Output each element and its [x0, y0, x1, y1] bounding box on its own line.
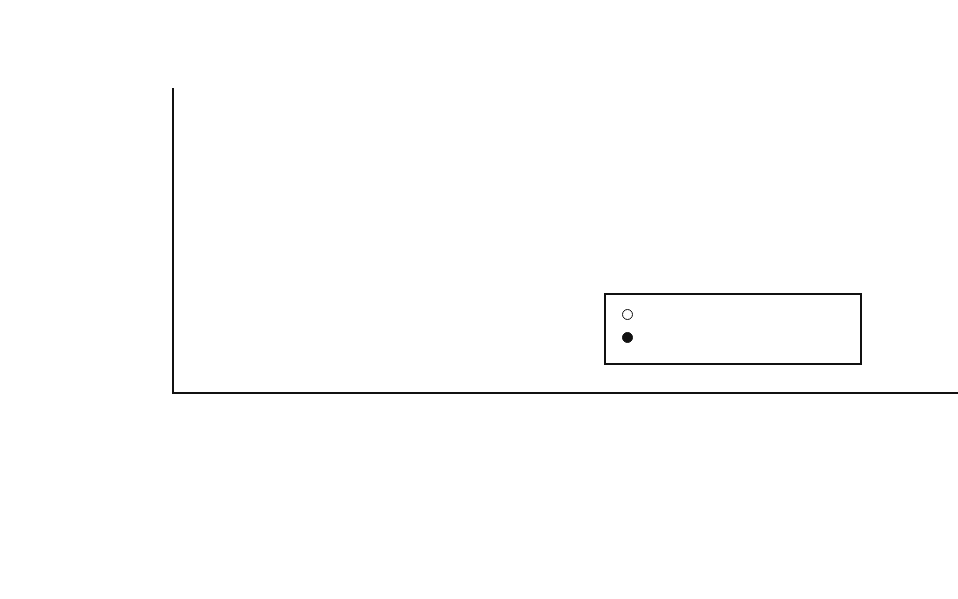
filled-circle-icon	[622, 332, 633, 343]
open-circle-icon	[622, 309, 633, 320]
y-axis-line	[172, 88, 174, 394]
chart-legend	[604, 293, 862, 365]
x-axis-line	[172, 392, 958, 394]
